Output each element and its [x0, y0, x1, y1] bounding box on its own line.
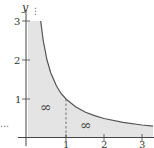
- left-dots: ⋯: [0, 121, 9, 131]
- y-tick-label-2: 2: [14, 55, 20, 66]
- y-axis-label: y: [21, 1, 29, 14]
- y-tick-label-3: 3: [14, 16, 20, 27]
- infinity-label-right: ∞: [80, 117, 92, 133]
- y-tick-label-1: 1: [15, 94, 21, 105]
- improper-integral-chart: y ⋮ 3 2 1 ⋯ 1 2 3 ∞ ∞: [0, 0, 154, 148]
- top-dots: ⋮: [31, 6, 40, 16]
- x-tick-label-1: 1: [63, 139, 69, 148]
- x-tick-label-2: 2: [101, 139, 107, 148]
- x-tick-label-3: 3: [139, 139, 145, 148]
- infinity-label-left: ∞: [40, 99, 52, 115]
